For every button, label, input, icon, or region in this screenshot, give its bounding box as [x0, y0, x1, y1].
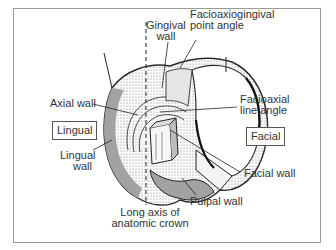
- label-facial-wall: Facial wall: [244, 168, 295, 179]
- gingival-margin-line: [104, 53, 112, 88]
- label-pulpal-wall: Pulpal wall: [190, 196, 243, 207]
- label-lingual-wall-line2: wall: [60, 161, 92, 172]
- surface-label-facial: Facial: [246, 127, 285, 146]
- label-long-axis: Long axis of anatomic crown: [110, 207, 190, 229]
- label-gingival-wall-line2: wall: [146, 31, 186, 42]
- label-facioaxiogingival-point-angle: Facioaxiogingival point angle: [190, 9, 274, 31]
- label-gingival-wall: Gingival wall: [146, 20, 186, 42]
- label-long-axis-line2: anatomic crown: [110, 218, 190, 229]
- label-lingual-wall: Lingual wall: [60, 150, 92, 172]
- surface-label-lingual: Lingual: [52, 121, 97, 140]
- label-facioaxial-line2: line angle: [240, 105, 290, 116]
- label-facioaxial-line-angle: Facioaxial line angle: [240, 94, 290, 116]
- gingival-wall: [166, 69, 192, 106]
- label-axial-wall: Axial wall: [50, 98, 96, 109]
- label-facioaxiogingival-line2: point angle: [190, 20, 274, 31]
- pulpal-box: [150, 124, 172, 164]
